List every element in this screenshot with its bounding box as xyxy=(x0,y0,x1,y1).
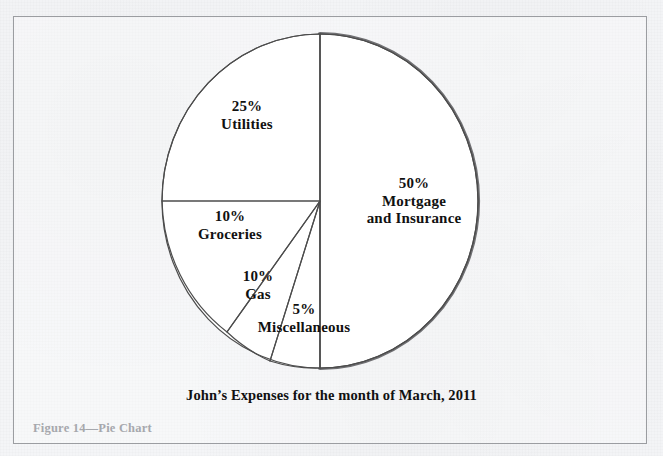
pie-label-percent: 10% xyxy=(208,268,308,286)
pie-label-percent: 50% xyxy=(334,175,494,193)
pie-label-utilities: 25% Utilities xyxy=(182,98,312,133)
pie-label-name-line1: Miscellaneous xyxy=(229,319,379,337)
pie-label-name-line1: Mortgage xyxy=(334,193,494,211)
pie-label-gas: 10% Gas xyxy=(208,268,308,303)
pie-label-mortgage-and-insurance: 50% Mortgage and Insurance xyxy=(334,175,494,228)
pie-label-name-line1: Groceries xyxy=(160,226,300,244)
pie-label-percent: 10% xyxy=(160,208,300,226)
pie-chart-figure: 50% Mortgage and Insurance 25% Utilities… xyxy=(0,0,663,456)
chart-title: John’s Expenses for the month of March, … xyxy=(0,387,663,404)
pie-label-miscellaneous: 5% Miscellaneous xyxy=(229,301,379,336)
pie-label-groceries: 10% Groceries xyxy=(160,208,300,243)
pie-label-name-line2: and Insurance xyxy=(334,210,494,228)
pie-label-name-line1: Utilities xyxy=(182,116,312,134)
figure-caption: Figure 14—Pie Chart xyxy=(33,421,152,436)
document-page: 50% Mortgage and Insurance 25% Utilities… xyxy=(0,0,663,456)
pie-label-percent: 5% xyxy=(229,301,379,319)
pie-label-percent: 25% xyxy=(182,98,312,116)
